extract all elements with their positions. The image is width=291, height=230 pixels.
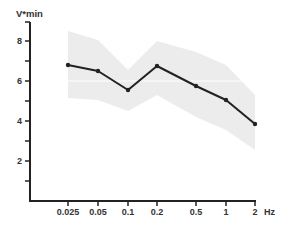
x-tick-label: 0.1 <box>122 207 135 217</box>
range-band-area <box>68 31 255 150</box>
range-band <box>68 31 255 150</box>
x-tick-label: 0.025 <box>57 207 80 217</box>
line-chart: 2468 0.0250.050.10.20.512 V*min Hz <box>0 0 291 230</box>
x-tick-label: 1 <box>223 207 228 217</box>
x-tick-label: 0.2 <box>151 207 164 217</box>
data-point-marker <box>66 63 70 67</box>
data-point-marker <box>126 88 130 92</box>
data-point-marker <box>253 122 257 126</box>
y-tick-label: 6 <box>17 76 22 86</box>
x-axis-unit: Hz <box>264 207 275 217</box>
x-ticks: 0.0250.050.10.20.512 <box>57 201 258 217</box>
y-ticks: 2468 <box>17 22 30 181</box>
data-point-marker <box>155 64 159 68</box>
data-point-marker <box>96 69 100 73</box>
x-tick-label: 0.05 <box>89 207 107 217</box>
x-tick-label: 0.5 <box>190 207 203 217</box>
data-point-marker <box>194 84 198 88</box>
y-tick-label: 8 <box>17 36 22 46</box>
y-tick-label: 2 <box>17 156 22 166</box>
y-axis-title: V*min <box>16 8 43 19</box>
y-tick-label: 4 <box>17 116 22 126</box>
x-tick-label: 2 <box>252 207 257 217</box>
data-point-marker <box>224 98 228 102</box>
